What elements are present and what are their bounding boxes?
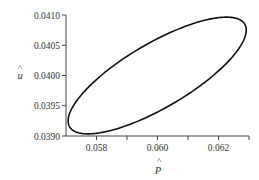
x-tick-label: 0.060 [147, 143, 169, 153]
y-tick-label: 0.0400 [34, 71, 60, 81]
y-axis: 0.03900.03950.04000.04050.0410 [34, 11, 66, 142]
orbit-curve [68, 17, 246, 134]
y-tick-label: 0.0395 [34, 101, 60, 111]
x-axis: 0.0580.0600.062 [66, 136, 249, 153]
chart: 0.03900.03950.04000.04050.0410 0.0580.06… [0, 0, 259, 180]
svg-text:P: P [154, 165, 162, 176]
y-tick-label: 0.0390 [34, 132, 60, 142]
y-tick-label: 0.0405 [34, 41, 60, 51]
x-axis-label: P ^ [154, 156, 162, 176]
x-tick-label: 0.062 [208, 143, 230, 153]
y-tick-label: 0.0410 [34, 11, 60, 21]
y-axis-label: u ^ [17, 63, 23, 81]
x-tick-label: 0.058 [86, 143, 108, 153]
